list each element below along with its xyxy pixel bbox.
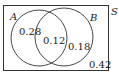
set-a-label: A: [9, 11, 17, 22]
venn-diagram: S A B 0.28 0.12 0.18 0.42: [0, 0, 119, 76]
intersection-value: 0.12: [43, 35, 65, 46]
set-b-label: B: [89, 12, 97, 23]
set-a-only-value: 0.28: [19, 26, 41, 37]
outside-value: 0.42: [89, 59, 111, 70]
set-b-only-value: 0.18: [68, 41, 90, 52]
universe-label: S: [111, 6, 118, 17]
